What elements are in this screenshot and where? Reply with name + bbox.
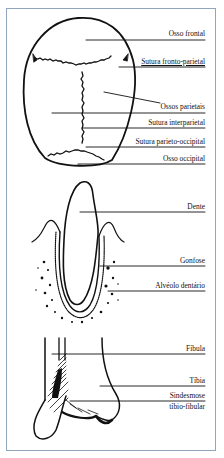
- label-tibio-fibular: tíbio-fibular: [169, 403, 205, 411]
- label-sutura-fronto-parietal: Sutura fronto-parietal: [141, 58, 205, 66]
- label-osso-occipital: Osso occipital: [163, 155, 205, 163]
- label-sindesmose: Sindesmose: [170, 392, 205, 400]
- tooth-drawing: [32, 182, 205, 323]
- label-osso-frontal: Osso frontal: [169, 30, 205, 38]
- label-sutura-interparietal: Sutura interparietal: [148, 119, 205, 127]
- label-tibia: Tíbia: [189, 377, 205, 385]
- label-dente: Dente: [187, 203, 205, 211]
- label-sutura-parieto-occipital: Sutura parieto-occipital: [135, 138, 205, 146]
- ankle-drawing: [34, 338, 205, 439]
- label-gonfose: Gonfose: [180, 257, 205, 265]
- anatomy-diagram: [0, 0, 224, 458]
- label-alveolo-dentario: Alvéolo dentário: [155, 282, 205, 290]
- label-ossos-parietais: Ossos parietais: [160, 103, 205, 111]
- label-fibula: Fíbula: [186, 345, 205, 353]
